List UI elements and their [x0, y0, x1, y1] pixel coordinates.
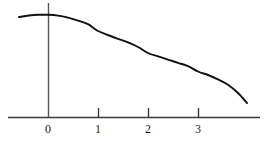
x-tick-label-0: 0: [38, 122, 58, 136]
x-axis-ticks-group: [99, 108, 199, 117]
curve-line-series: [19, 15, 247, 103]
x-tick-label-2: 2: [138, 122, 158, 136]
x-tick-label-1: 1: [88, 122, 108, 136]
x-tick-label-3: 3: [188, 122, 208, 136]
chart-figure: 0 1 2 3: [0, 0, 267, 147]
axes-group: [8, 3, 260, 118]
data-series-group: [19, 15, 247, 103]
